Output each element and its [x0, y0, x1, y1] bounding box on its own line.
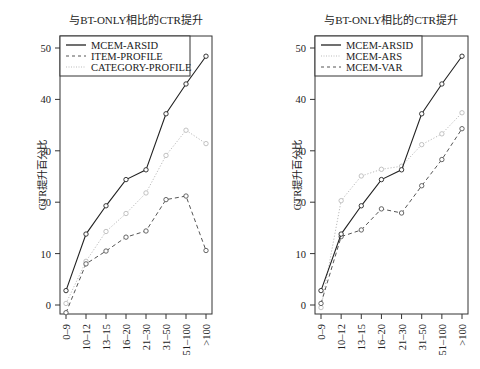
x-tick-label: 16–20 — [121, 324, 132, 350]
y-tick-label: 40 — [296, 94, 307, 105]
data-point — [399, 168, 403, 172]
data-point — [420, 142, 424, 146]
data-point — [184, 82, 188, 86]
data-point — [104, 229, 108, 233]
data-point — [144, 168, 148, 172]
series-line — [66, 130, 206, 303]
x-tick-label: 10–12 — [81, 324, 92, 350]
x-tick-label: 51–100 — [437, 324, 448, 356]
charts-canvas: 与BT-ONLY相比的CTR提升01020304050CTR提升百分比0–910… — [0, 0, 480, 369]
y-tick-label: 0 — [46, 300, 51, 311]
series-line — [66, 196, 206, 313]
legend: MCEM-ARSIDITEM-PROFILECATEGORY-PROFILE — [60, 36, 191, 76]
x-tick-label: 13–15 — [356, 324, 367, 350]
data-point — [164, 197, 168, 201]
data-point — [144, 229, 148, 233]
legend-label: MCEM-ARSID — [91, 40, 159, 51]
data-point — [379, 167, 383, 171]
data-point — [64, 311, 68, 315]
y-tick-label: 0 — [301, 300, 306, 311]
legend-label: MCEM-ARS — [346, 51, 402, 62]
chart-title: 与BT-ONLY相比的CTR提升 — [69, 13, 203, 26]
data-point — [460, 126, 464, 130]
data-point — [339, 198, 343, 202]
data-point — [420, 184, 424, 188]
data-point — [164, 112, 168, 116]
series-mcem-ars — [319, 111, 464, 310]
data-point — [184, 128, 188, 132]
data-point — [164, 153, 168, 157]
x-tick-label: 31–50 — [417, 324, 428, 350]
data-point — [124, 211, 128, 215]
data-point — [124, 235, 128, 239]
data-point — [359, 228, 363, 232]
data-point — [379, 207, 383, 211]
figure: 与BT-ONLY相比的CTR提升01020304050CTR提升百分比0–910… — [0, 0, 480, 369]
series-item-profile — [64, 194, 208, 315]
data-point — [359, 174, 363, 178]
x-tick-label: 21–30 — [397, 324, 408, 350]
legend-label: MCEM-ARSID — [346, 40, 414, 51]
data-point — [204, 54, 208, 58]
data-point — [104, 249, 108, 253]
x-tick-label: 31–50 — [161, 324, 172, 350]
data-point — [204, 248, 208, 252]
data-point — [84, 232, 88, 236]
y-tick-label: 50 — [41, 43, 52, 54]
x-tick-label: 21–30 — [141, 324, 152, 350]
series-line — [321, 56, 462, 290]
data-point — [440, 157, 444, 161]
data-point — [359, 204, 363, 208]
x-tick-label: >100 — [457, 324, 468, 346]
y-tick-label: 50 — [296, 43, 307, 54]
data-point — [460, 111, 464, 115]
data-point — [440, 82, 444, 86]
series-category-profile — [64, 128, 208, 306]
data-point — [399, 211, 403, 215]
y-axis-label: CTR提升百分比 — [36, 140, 48, 210]
series-mcem-arsid — [64, 54, 208, 293]
y-axis-label: CTR提升百分比 — [291, 140, 303, 210]
x-tick-label: 0–9 — [316, 324, 327, 340]
data-point — [64, 301, 68, 305]
data-point — [319, 288, 323, 292]
y-tick-label: 10 — [296, 249, 307, 260]
data-point — [379, 177, 383, 181]
x-tick-label: 51–100 — [181, 324, 192, 356]
y-tick-label: 40 — [41, 94, 52, 105]
legend: MCEM-ARSIDMCEM-ARSMCEM-VAR — [315, 36, 422, 76]
chart-1: 与BT-ONLY相比的CTR提升01020304050CTR提升百分比0–910… — [36, 13, 212, 356]
series-mcem-var — [319, 126, 464, 305]
data-point — [460, 54, 464, 58]
data-point — [339, 232, 343, 236]
series-line — [321, 129, 462, 304]
x-tick-label: >100 — [201, 324, 212, 346]
legend-label: ITEM-PROFILE — [91, 51, 163, 62]
series-line — [66, 56, 206, 290]
data-point — [184, 194, 188, 198]
legend-label: MCEM-VAR — [346, 62, 402, 73]
data-point — [104, 204, 108, 208]
data-point — [64, 288, 68, 292]
data-point — [319, 301, 323, 305]
data-point — [204, 141, 208, 145]
x-tick-label: 16–20 — [376, 324, 387, 350]
data-point — [440, 132, 444, 136]
data-point — [420, 112, 424, 116]
x-tick-label: 13–15 — [101, 324, 112, 350]
chart-title: 与BT-ONLY相比的CTR提升 — [324, 13, 458, 26]
y-tick-label: 10 — [41, 249, 52, 260]
legend-label: CATEGORY-PROFILE — [91, 62, 191, 73]
data-point — [124, 177, 128, 181]
data-point — [84, 262, 88, 266]
x-tick-label: 0–9 — [61, 324, 72, 340]
x-tick-label: 10–12 — [336, 324, 347, 350]
series-line — [321, 113, 462, 308]
chart-2: 与BT-ONLY相比的CTR提升01020304050CTR提升百分比0–910… — [291, 13, 468, 356]
data-point — [144, 191, 148, 195]
series-mcem-arsid — [319, 54, 464, 293]
